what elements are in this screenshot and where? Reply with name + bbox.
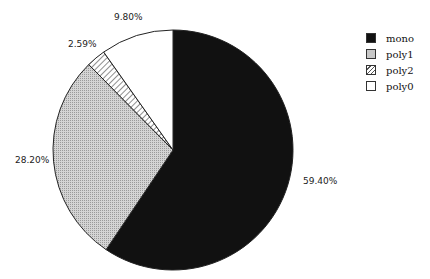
legend-swatch-mono — [366, 33, 376, 43]
legend-item-poly0: poly0 — [366, 79, 414, 93]
slice-label-mono: 59.40% — [303, 176, 337, 186]
legend-item-poly2: poly2 — [366, 63, 414, 77]
slice-label-poly0: 9.80% — [114, 12, 143, 22]
slice-label-poly1: 28.20% — [15, 155, 49, 165]
legend-item-poly1: poly1 — [366, 47, 414, 61]
legend: mono poly1 poly2 poly0 — [366, 31, 414, 95]
legend-swatch-poly2 — [366, 65, 376, 75]
slice-label-poly2: 2.59% — [68, 39, 97, 49]
legend-item-mono: mono — [366, 31, 414, 45]
legend-swatch-poly0 — [366, 81, 376, 91]
legend-swatch-poly1 — [366, 49, 376, 59]
